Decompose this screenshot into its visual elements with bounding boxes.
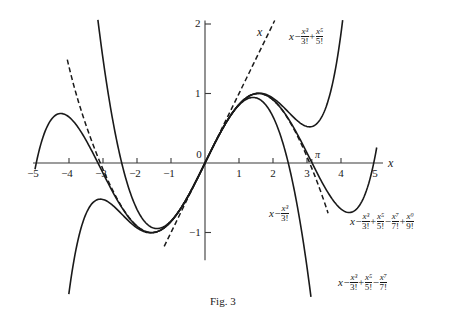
y-tick-label: −1 bbox=[189, 227, 201, 238]
curve-degree-5 bbox=[69, 20, 343, 294]
pi-label: π bbox=[315, 150, 320, 160]
x-tick-label: −3 bbox=[95, 168, 107, 179]
curve-degree-3 bbox=[98, 20, 311, 297]
x-tick-label: −2 bbox=[129, 168, 141, 179]
x-axis-label: x bbox=[388, 157, 393, 169]
y-tick-label: 2 bbox=[195, 18, 201, 29]
x-tick-label: 0 bbox=[196, 149, 202, 160]
x-tick-label: −5 bbox=[27, 168, 39, 179]
label-t7: x− x³3! + x⁵5! − x⁷7! bbox=[338, 273, 387, 292]
x-tick-label: 3 bbox=[304, 168, 310, 179]
x-tick-label: −4 bbox=[61, 168, 73, 179]
x-tick-label: 4 bbox=[338, 168, 344, 179]
figure-caption: Fig. 3 bbox=[210, 295, 236, 307]
x-tick-label: 1 bbox=[236, 168, 242, 179]
label-x-line: x bbox=[257, 26, 262, 38]
x-tick-label: 2 bbox=[270, 168, 276, 179]
label-t9: x− x³3! + x⁵5! − x⁷7! + x⁹9! bbox=[350, 212, 414, 231]
x-tick-label: −1 bbox=[163, 168, 175, 179]
x-tick-label: 5 bbox=[372, 168, 378, 179]
y-tick-label: 1 bbox=[195, 88, 201, 99]
label-t3: x− x³3! bbox=[269, 204, 289, 223]
label-t5: x− x³3! + x⁵5! bbox=[289, 27, 323, 46]
curves bbox=[35, 20, 377, 297]
